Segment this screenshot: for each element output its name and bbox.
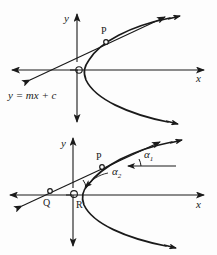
alpha-2-sub: 2 [118, 172, 122, 180]
bottom-alpha-2-leader-arrow [85, 181, 92, 187]
alpha-1-sub: 1 [150, 155, 154, 163]
bottom-point-label-P: P [96, 151, 102, 162]
bottom-angle-label-alpha-1: α1 [144, 148, 153, 163]
figure-root: P x y y = mx + c [0, 0, 217, 255]
bottom-x-axis-label: x [195, 198, 201, 210]
bottom-origin-marker [71, 191, 78, 198]
bottom-point-Q-marker [48, 189, 53, 194]
bottom-point-label-R: R [76, 199, 83, 210]
bottom-point-P-marker [100, 165, 105, 170]
bottom-panel-figure: P Q R x y α1 α2 [0, 128, 217, 255]
top-y-axis-label: y [63, 12, 69, 24]
bottom-angle-label-alpha-2: α2 [112, 165, 122, 180]
top-x-axis-label: x [195, 72, 201, 84]
top-line-equation-label: y = mx + c [7, 89, 57, 101]
bottom-angle-arc-alpha-1 [139, 159, 141, 166]
bottom-y-axis-label: y [60, 137, 66, 149]
top-panel-figure: P x y y = mx + c [0, 0, 217, 128]
bottom-point-label-Q: Q [43, 197, 51, 208]
top-point-label-P: P [101, 25, 107, 36]
top-point-P-marker [104, 40, 109, 45]
